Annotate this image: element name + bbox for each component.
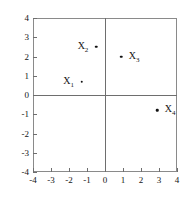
y-axis-line <box>105 18 106 172</box>
x-tick <box>123 168 124 172</box>
y-tick <box>33 18 37 19</box>
y-tick <box>33 76 37 77</box>
y-tick <box>33 95 37 96</box>
x-tick-label: 1 <box>121 176 126 185</box>
data-point <box>120 55 123 58</box>
x-tick-label: 0 <box>103 176 108 185</box>
y-tick-label: 2 <box>13 52 29 61</box>
x-tick <box>51 168 52 172</box>
x-tick <box>141 168 142 172</box>
y-tick-label: 4 <box>13 14 29 23</box>
x-tick-label: -2 <box>65 176 73 185</box>
x-tick <box>87 168 88 172</box>
y-tick <box>33 57 37 58</box>
y-tick-label: -4 <box>13 168 29 177</box>
x-tick <box>177 168 178 172</box>
y-tick <box>33 134 37 135</box>
y-tick-label: -2 <box>13 129 29 138</box>
data-point-label: X2 <box>78 41 89 55</box>
data-point <box>95 46 98 49</box>
x-tick-label: -4 <box>29 176 37 185</box>
y-tick-label: -1 <box>13 110 29 119</box>
x-tick-label: 2 <box>139 176 144 185</box>
x-tick <box>159 168 160 172</box>
data-point <box>80 80 83 83</box>
x-tick <box>69 168 70 172</box>
data-point-label: X4 <box>165 104 176 118</box>
data-point-label: X3 <box>129 51 140 65</box>
x-tick-label: 3 <box>157 176 162 185</box>
x-tick <box>105 168 106 172</box>
x-tick-label: -3 <box>47 176 55 185</box>
y-tick-label: -3 <box>13 148 29 157</box>
x-tick-label: 4 <box>175 176 180 185</box>
data-point <box>156 109 159 112</box>
scatter-plot: -4-3-2-101234 -4-3-2-101234 X1X2X3X4 <box>0 0 194 203</box>
y-tick <box>33 172 37 173</box>
y-tick-label: 3 <box>13 33 29 42</box>
data-point-label: X1 <box>63 76 74 90</box>
y-tick-label: 0 <box>13 91 29 100</box>
y-tick <box>33 153 37 154</box>
y-tick <box>33 37 37 38</box>
y-tick <box>33 114 37 115</box>
x-tick-label: -1 <box>83 176 91 185</box>
y-tick-label: 1 <box>13 71 29 80</box>
